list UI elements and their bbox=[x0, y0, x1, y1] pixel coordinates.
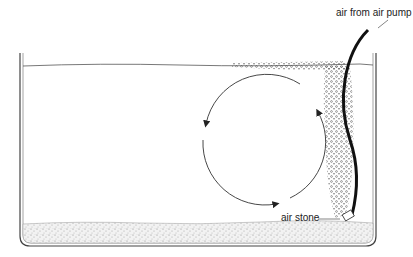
gravel-bed bbox=[23, 221, 373, 243]
circulation-arrows bbox=[203, 74, 326, 205]
air-pump-leader bbox=[378, 20, 388, 28]
air-pump-label: air from air pump bbox=[336, 7, 412, 18]
tank bbox=[20, 53, 376, 246]
air-stone-label: air stone bbox=[281, 212, 319, 223]
aquarium-diagram bbox=[0, 0, 413, 257]
